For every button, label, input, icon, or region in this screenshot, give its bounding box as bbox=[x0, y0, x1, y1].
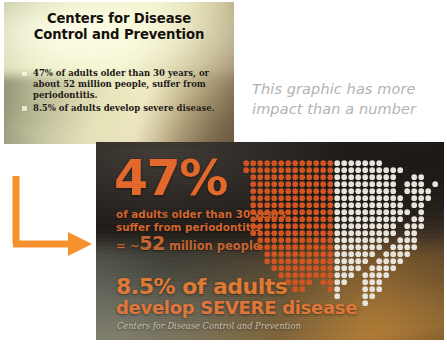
primary-stat-value: 47% bbox=[114, 154, 227, 203]
before-slide-thumbnail[interactable]: Centers for Disease Control and Preventi… bbox=[4, 2, 234, 144]
bullet-text: 8.5% of adults develop severe disease. bbox=[33, 103, 215, 113]
bullet-text: 47% of adults older than 30 years, or ab… bbox=[33, 68, 209, 100]
screenshot-canvas: Centers for Disease Control and Preventi… bbox=[0, 0, 447, 345]
secondary-stat-line-1: 8.5% of adults bbox=[116, 275, 287, 299]
source-credit-text: Centers for Disease Control and Preventi… bbox=[117, 321, 301, 331]
equiv-number: 52 bbox=[139, 232, 165, 254]
before-slide-bullet-list: 47% of adults older than 30 years, or ab… bbox=[22, 68, 226, 115]
list-item: 47% of adults older than 30 years, or ab… bbox=[22, 68, 226, 102]
secondary-stat-line-2: develop SEVERE disease bbox=[116, 298, 357, 318]
bullet-square-icon bbox=[22, 106, 27, 111]
list-item: 8.5% of adults develop severe disease. bbox=[22, 103, 226, 114]
before-slide-title: Centers for Disease Control and Preventi… bbox=[20, 11, 218, 42]
equiv-prefix: = ~ bbox=[116, 239, 139, 253]
callout-note-text: This graphic has more impact than a numb… bbox=[252, 79, 432, 119]
after-slide-thumbnail[interactable]: 47% of adults older than 30 years suffer… bbox=[96, 142, 444, 340]
elbow-arrow-icon bbox=[8, 174, 100, 256]
bullet-square-icon bbox=[22, 72, 27, 77]
